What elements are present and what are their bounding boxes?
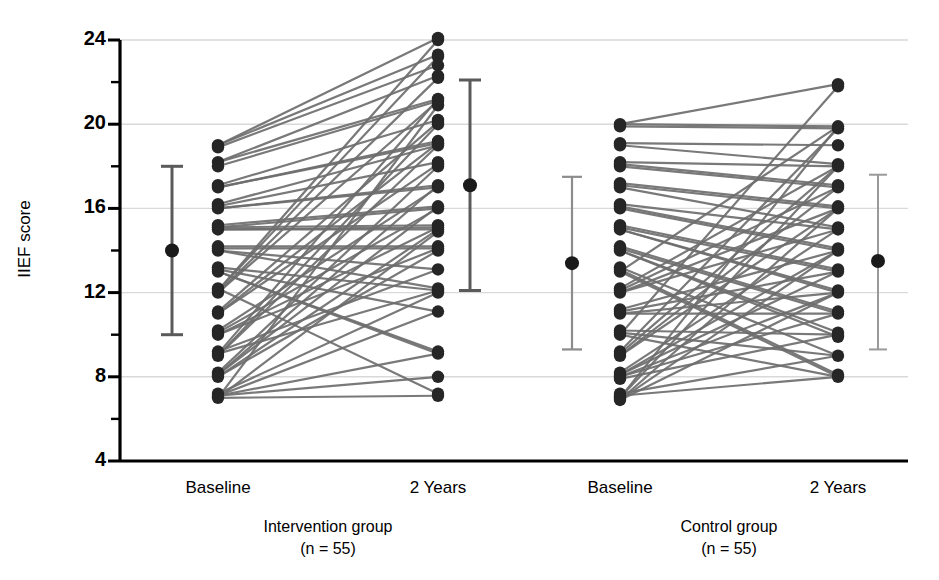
iief-score-paired-line-chart — [0, 0, 939, 580]
data-point-baseline — [614, 394, 626, 406]
data-point-followup — [432, 225, 444, 237]
data-point-baseline — [614, 139, 626, 151]
data-point-baseline — [212, 160, 224, 172]
data-point-followup — [832, 244, 844, 256]
data-point-followup — [832, 223, 844, 235]
data-point-baseline — [212, 244, 224, 256]
data-point-followup — [832, 181, 844, 193]
data-point-baseline — [212, 307, 224, 319]
data-point-baseline — [614, 329, 626, 341]
chart-figure: 4812162024IIEF scoreBaseline2 YearsBasel… — [0, 0, 939, 580]
data-point-followup — [432, 390, 444, 402]
data-point-baseline — [614, 181, 626, 193]
data-point-followup — [832, 286, 844, 298]
error-bar-intervention-followup-mean-marker — [463, 178, 477, 192]
data-point-baseline — [212, 141, 224, 153]
data-point-baseline — [614, 350, 626, 362]
data-point-baseline — [614, 202, 626, 214]
data-point-followup — [832, 139, 844, 151]
data-point-followup — [832, 80, 844, 92]
data-point-followup — [432, 34, 444, 46]
data-point-baseline — [614, 223, 626, 235]
data-point-followup — [432, 181, 444, 193]
data-point-baseline — [614, 120, 626, 132]
data-point-baseline — [212, 223, 224, 235]
error-bar-intervention-baseline-mean-marker — [165, 244, 179, 258]
data-point-followup — [832, 329, 844, 341]
data-point-baseline — [614, 373, 626, 385]
data-point-followup — [432, 263, 444, 275]
data-point-followup — [832, 265, 844, 277]
data-point-baseline — [614, 160, 626, 172]
data-point-followup — [432, 202, 444, 214]
data-point-followup — [432, 118, 444, 130]
data-point-baseline — [212, 371, 224, 383]
error-bar-control-followup-mean-marker — [871, 254, 885, 268]
data-point-baseline — [212, 265, 224, 277]
data-point-baseline — [212, 181, 224, 193]
data-point-followup — [432, 347, 444, 359]
data-point-baseline — [614, 307, 626, 319]
data-point-baseline — [212, 392, 224, 404]
data-point-followup — [832, 122, 844, 134]
data-point-followup — [432, 160, 444, 172]
error-bar-control-baseline-mean-marker — [565, 256, 579, 270]
data-point-followup — [432, 51, 444, 63]
data-point-baseline — [212, 202, 224, 214]
data-point-followup — [432, 305, 444, 317]
data-point-followup — [832, 371, 844, 383]
data-point-followup — [832, 307, 844, 319]
data-point-baseline — [614, 286, 626, 298]
data-point-followup — [832, 350, 844, 362]
data-point-baseline — [212, 350, 224, 362]
data-point-baseline — [614, 244, 626, 256]
data-point-followup — [832, 160, 844, 172]
data-point-followup — [432, 99, 444, 111]
data-point-followup — [432, 371, 444, 383]
data-point-followup — [432, 72, 444, 84]
data-point-baseline — [614, 265, 626, 277]
data-point-followup — [832, 202, 844, 214]
data-point-followup — [432, 244, 444, 256]
data-point-followup — [432, 286, 444, 298]
data-point-baseline — [212, 286, 224, 298]
data-point-followup — [432, 139, 444, 151]
data-point-baseline — [212, 329, 224, 341]
